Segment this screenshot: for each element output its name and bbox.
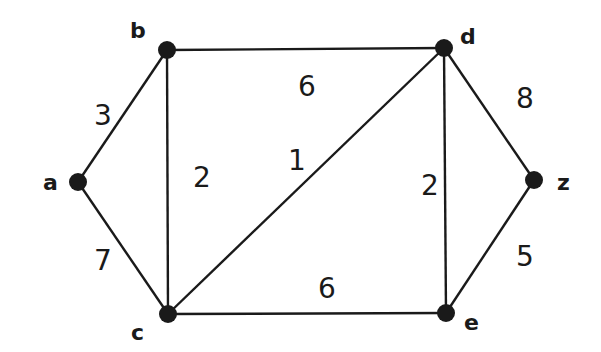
edge-b-d — [167, 48, 444, 50]
edge-a-c — [78, 182, 168, 314]
node-c — [159, 305, 177, 323]
edge-weight-e-z: 5 — [516, 240, 534, 273]
node-e — [437, 304, 455, 322]
graph-diagram: 372616285 abcdez — [0, 0, 601, 352]
node-label-e: e — [464, 310, 479, 335]
node-label-d: d — [460, 24, 476, 49]
weights-layer: 372616285 — [94, 70, 534, 305]
edge-weight-c-e: 6 — [318, 272, 336, 305]
edge-weight-a-c: 7 — [94, 244, 112, 277]
edge-weight-d-z: 8 — [516, 82, 534, 115]
node-label-a: a — [43, 170, 58, 195]
node-label-b: b — [130, 18, 146, 43]
node-a — [69, 173, 87, 191]
edge-d-e — [444, 48, 446, 313]
edge-b-c — [167, 50, 168, 314]
edge-weight-d-e: 2 — [421, 169, 439, 202]
edge-a-b — [78, 50, 167, 182]
node-label-z: z — [557, 170, 570, 195]
node-label-c: c — [131, 320, 144, 345]
node-d — [435, 39, 453, 57]
edge-weight-c-d: 1 — [288, 144, 306, 177]
node-z — [525, 171, 543, 189]
edge-weight-a-b: 3 — [94, 99, 112, 132]
edge-c-e — [168, 313, 446, 314]
edge-weight-b-d: 6 — [298, 70, 316, 103]
edge-weight-b-c: 2 — [193, 161, 211, 194]
node-b — [158, 41, 176, 59]
